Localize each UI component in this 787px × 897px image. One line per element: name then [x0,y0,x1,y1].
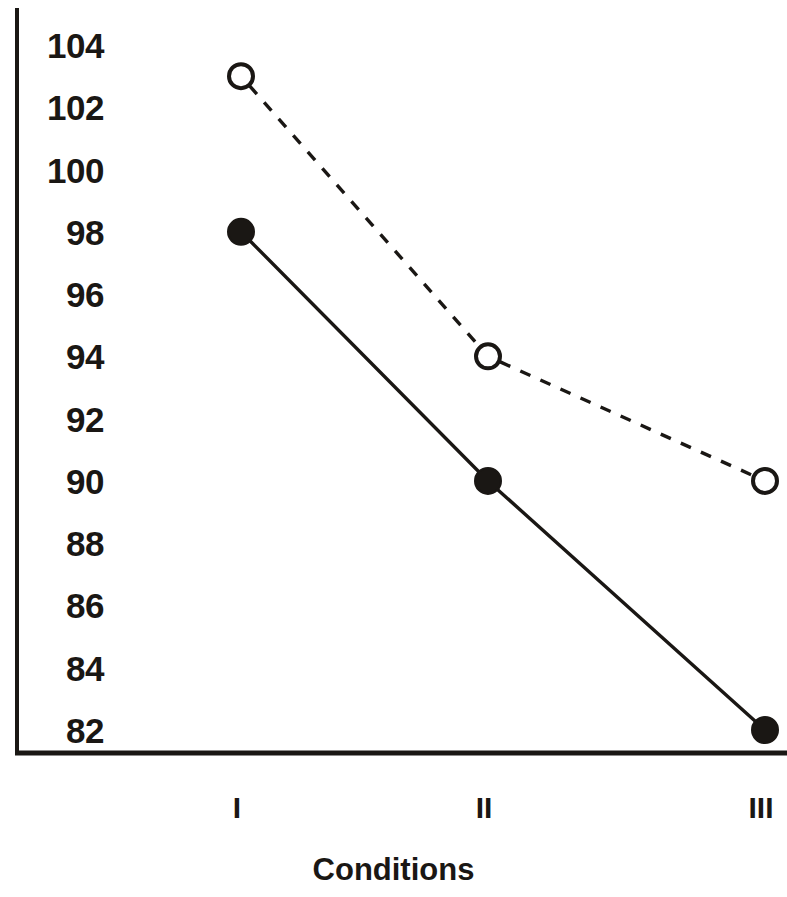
chart-figure: 104102100989694929088868482 IIIIII Condi… [0,0,787,897]
x-axis-tick-label: I [233,793,241,823]
x-axis-tick-label: II [476,793,493,823]
x-axis-tick-labels: IIIIII [0,0,787,897]
x-axis-title: Conditions [0,852,787,888]
x-axis-tick-label: III [748,793,773,823]
